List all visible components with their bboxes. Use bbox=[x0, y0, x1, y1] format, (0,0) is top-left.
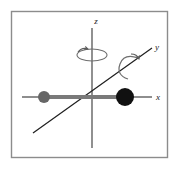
atom-large bbox=[116, 88, 134, 106]
z-axis-label: z bbox=[93, 16, 98, 26]
x-axis-label: x bbox=[155, 92, 160, 102]
figure-container: z y x bbox=[0, 0, 180, 170]
y-axis-label: y bbox=[154, 42, 159, 52]
atom-small bbox=[38, 91, 50, 103]
rotation-axes-diagram: z y x bbox=[0, 0, 180, 170]
figure-frame bbox=[12, 12, 168, 158]
